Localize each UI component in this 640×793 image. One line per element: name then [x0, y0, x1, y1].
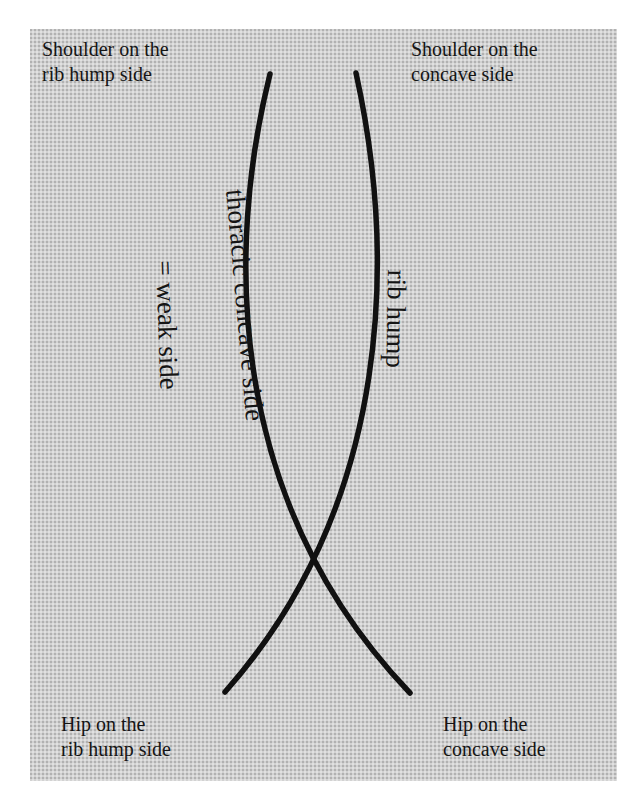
- left-arc-curve: [246, 74, 410, 693]
- label-line: Hip on the: [443, 712, 546, 737]
- label-line: concave side: [443, 737, 546, 762]
- label-shoulder-concave-side: Shoulder on the concave side: [411, 37, 538, 87]
- label-hip-rib-hump-side: Hip on the rib hump side: [61, 712, 171, 762]
- label-shoulder-rib-hump-side: Shoulder on the rib hump side: [42, 37, 169, 87]
- label-line: Hip on the: [61, 712, 171, 737]
- label-line: Shoulder on the: [42, 37, 169, 62]
- label-line: concave side: [411, 62, 538, 87]
- spine-curves: [0, 0, 640, 793]
- weak-side-label: = weak side: [149, 260, 184, 390]
- label-hip-concave-side: Hip on the concave side: [443, 712, 546, 762]
- label-line: rib hump side: [61, 737, 171, 762]
- rib-hump-label: rib hump: [379, 269, 412, 368]
- label-line: rib hump side: [42, 62, 169, 87]
- label-line: Shoulder on the: [411, 37, 538, 62]
